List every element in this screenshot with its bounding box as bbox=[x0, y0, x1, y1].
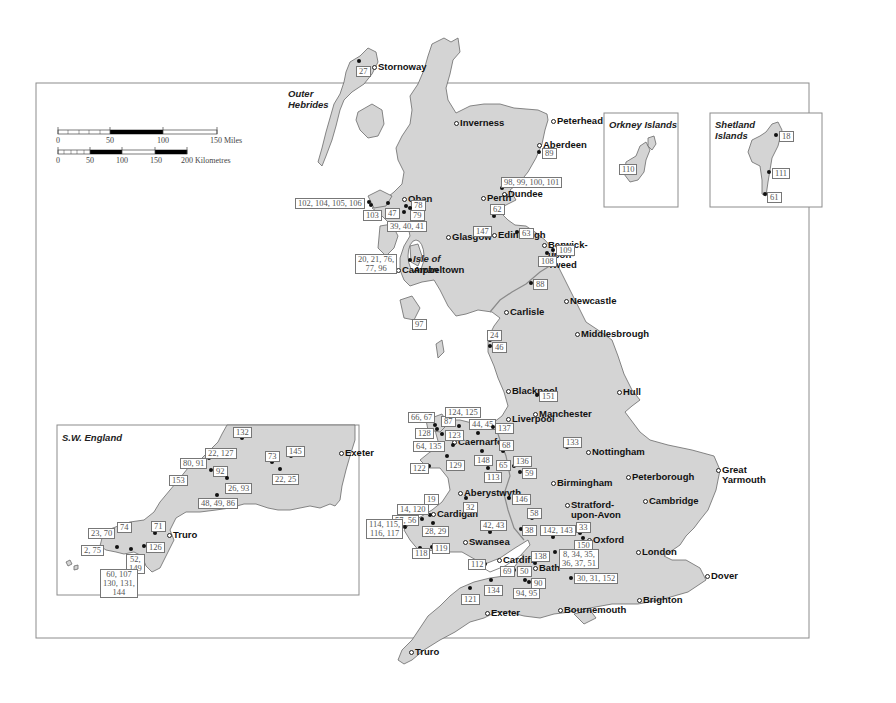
city-marker-icon[interactable] bbox=[533, 566, 538, 571]
city-marker-icon[interactable] bbox=[492, 233, 497, 238]
site-marker-icon[interactable] bbox=[278, 467, 282, 471]
city-marker-icon[interactable] bbox=[565, 503, 570, 508]
city-label[interactable]: Perth bbox=[487, 193, 511, 203]
site-number-label[interactable]: 145 bbox=[286, 446, 305, 457]
site-number-label[interactable]: 121 bbox=[461, 594, 480, 605]
site-marker-icon[interactable] bbox=[428, 513, 432, 517]
city-label[interactable]: Truro bbox=[173, 530, 197, 540]
site-number-label[interactable]: 14, 120 bbox=[397, 504, 429, 515]
city-label[interactable]: Cambridge bbox=[649, 496, 699, 506]
site-number-label[interactable]: 47 bbox=[385, 208, 400, 219]
site-number-label[interactable]: 48, 49, 86 bbox=[198, 498, 238, 509]
site-number-label[interactable]: 22, 127 bbox=[205, 448, 237, 459]
city-marker-icon[interactable] bbox=[551, 481, 556, 486]
city-label[interactable]: Exeter bbox=[345, 448, 374, 458]
site-marker-icon[interactable] bbox=[386, 201, 390, 205]
site-number-label[interactable]: 28, 29 bbox=[422, 526, 449, 537]
site-number-label[interactable]: 147 bbox=[473, 226, 492, 237]
city-label[interactable]: Liverpool bbox=[512, 414, 555, 424]
site-marker-icon[interactable] bbox=[215, 493, 219, 497]
site-marker-icon[interactable] bbox=[489, 578, 493, 582]
city-marker-icon[interactable] bbox=[537, 143, 542, 148]
site-marker-icon[interactable] bbox=[369, 203, 373, 207]
site-marker-icon[interactable] bbox=[523, 578, 527, 582]
site-marker-icon[interactable] bbox=[457, 424, 461, 428]
site-number-label[interactable]: 153 bbox=[169, 475, 188, 486]
site-number-label[interactable]: 123 bbox=[445, 430, 464, 441]
city-label[interactable]: Cardiff bbox=[503, 555, 534, 565]
site-number-label[interactable]: 27 bbox=[356, 66, 371, 77]
site-number-label[interactable]: 138 bbox=[531, 551, 550, 562]
site-marker-icon[interactable] bbox=[445, 454, 449, 458]
site-number-label[interactable]: 30, 31, 152 bbox=[574, 573, 618, 584]
city-marker-icon[interactable] bbox=[446, 235, 451, 240]
site-marker-icon[interactable] bbox=[464, 496, 468, 500]
city-marker-icon[interactable] bbox=[481, 196, 486, 201]
site-marker-icon[interactable] bbox=[480, 449, 484, 453]
city-marker-icon[interactable] bbox=[636, 550, 641, 555]
city-label[interactable]: Bournemouth bbox=[564, 605, 626, 615]
site-number-label[interactable]: 109 bbox=[556, 245, 575, 256]
site-marker-icon[interactable] bbox=[774, 133, 778, 137]
city-label[interactable]: Middlesbrough bbox=[581, 329, 649, 339]
site-marker-icon[interactable] bbox=[408, 258, 412, 262]
site-number-label[interactable]: 65 bbox=[496, 460, 511, 471]
site-number-label[interactable]: 148 bbox=[474, 455, 493, 466]
site-number-label[interactable]: 113 bbox=[484, 472, 502, 483]
site-number-label[interactable]: 136 bbox=[513, 456, 532, 467]
site-number-label[interactable]: 126 bbox=[146, 542, 165, 553]
site-number-label[interactable]: 112 bbox=[468, 559, 486, 570]
city-label[interactable]: Great Yarmouth bbox=[722, 465, 766, 485]
city-marker-icon[interactable] bbox=[409, 650, 414, 655]
city-marker-icon[interactable] bbox=[643, 499, 648, 504]
site-marker-icon[interactable] bbox=[420, 517, 424, 521]
site-number-label[interactable]: 68 bbox=[499, 440, 514, 451]
site-number-label[interactable]: 110 bbox=[619, 164, 637, 175]
site-number-label[interactable]: 73 bbox=[265, 451, 280, 462]
site-number-label[interactable]: 23, 70 bbox=[88, 528, 115, 539]
city-marker-icon[interactable] bbox=[504, 310, 509, 315]
site-number-label[interactable]: 98, 99, 100, 101 bbox=[501, 177, 562, 188]
city-label[interactable]: Bath bbox=[539, 563, 560, 573]
city-marker-icon[interactable] bbox=[485, 611, 490, 616]
city-marker-icon[interactable] bbox=[506, 417, 511, 422]
site-number-label[interactable]: 118 bbox=[412, 548, 430, 559]
site-number-label[interactable]: 102, 104, 105, 106 bbox=[295, 198, 365, 209]
city-label[interactable]: Dundee bbox=[508, 189, 543, 199]
site-number-label[interactable]: 134 bbox=[484, 585, 503, 596]
city-marker-icon[interactable] bbox=[506, 389, 511, 394]
city-marker-icon[interactable] bbox=[617, 390, 622, 395]
site-number-label[interactable]: 151 bbox=[539, 391, 558, 402]
site-number-label[interactable]: 79 bbox=[410, 210, 425, 221]
city-marker-icon[interactable] bbox=[497, 558, 502, 563]
site-number-label[interactable]: 133 bbox=[563, 437, 582, 448]
city-marker-icon[interactable] bbox=[463, 540, 468, 545]
site-number-label[interactable]: 108 bbox=[538, 256, 557, 267]
city-marker-icon[interactable] bbox=[339, 451, 344, 456]
site-marker-icon[interactable] bbox=[357, 59, 361, 63]
site-marker-icon[interactable] bbox=[403, 525, 407, 529]
site-number-label[interactable]: 128 bbox=[415, 428, 434, 439]
city-label[interactable]: Swansea bbox=[469, 537, 510, 547]
city-label[interactable]: Truro bbox=[415, 647, 439, 657]
site-number-label[interactable]: 146 bbox=[512, 494, 531, 505]
site-number-label[interactable]: 63 bbox=[519, 228, 534, 239]
city-label[interactable]: Newcastle bbox=[570, 296, 616, 306]
city-marker-icon[interactable] bbox=[626, 475, 631, 480]
site-number-label[interactable]: 119 bbox=[432, 543, 450, 554]
site-number-label[interactable]: 124, 125 bbox=[445, 407, 481, 418]
site-number-label[interactable]: 8, 34, 35, 36, 37, 51 bbox=[559, 549, 599, 569]
site-marker-icon[interactable] bbox=[767, 170, 771, 174]
city-label[interactable]: Stratford- upon-Avon bbox=[571, 500, 621, 520]
site-number-label[interactable]: 2, 75 bbox=[81, 545, 104, 556]
city-marker-icon[interactable] bbox=[716, 468, 721, 473]
city-marker-icon[interactable] bbox=[575, 332, 580, 337]
site-number-label[interactable]: 103 bbox=[363, 210, 382, 221]
city-label[interactable]: Brighton bbox=[643, 595, 683, 605]
city-label[interactable]: Nottingham bbox=[592, 447, 645, 457]
site-number-label[interactable]: 58 bbox=[527, 508, 542, 519]
city-marker-icon[interactable] bbox=[458, 491, 463, 496]
site-marker-icon[interactable] bbox=[468, 586, 472, 590]
site-marker-icon[interactable] bbox=[476, 431, 480, 435]
site-marker-icon[interactable] bbox=[553, 550, 557, 554]
